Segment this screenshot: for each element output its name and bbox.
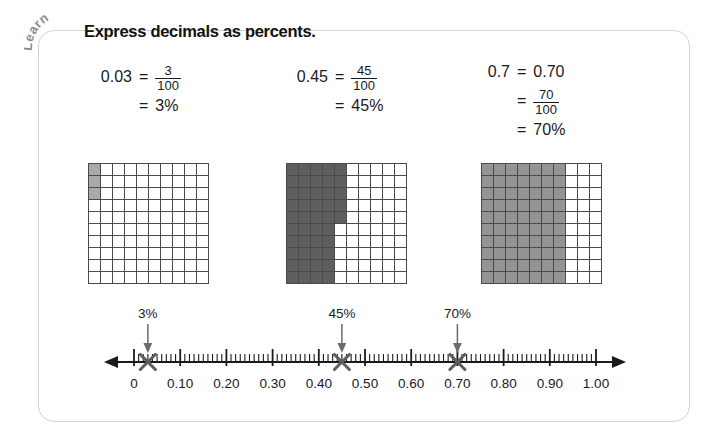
grid-cell-empty [125,200,136,211]
grid-cell-empty [161,200,172,211]
fraction-denominator: 100 [533,102,559,117]
grid-cell-shaded [299,176,310,187]
grid-cell-empty [578,224,589,235]
grid-cell-empty [383,272,394,283]
grid-cell-empty [371,164,382,175]
grid-cell-shaded [542,164,553,175]
grid-cell-shaded [518,188,529,199]
grid-cell-empty [359,176,370,187]
grid-cell-shaded [494,164,505,175]
grid-cell-empty [335,224,346,235]
grid-cell-shaded [323,224,334,235]
grid-cell-empty [395,248,406,259]
grid-cell-empty [347,272,358,283]
grid-cell-empty [371,176,382,187]
grid-cell-empty [347,200,358,211]
grid-cell-shaded [554,188,565,199]
grid-cell-empty [578,236,589,247]
grid-cell-shaded [554,176,565,187]
grid-cell-shaded [482,200,493,211]
grid-cell-shaded [506,212,517,223]
grid-cell-empty [89,260,100,271]
equation-decimal: 0.03 [92,68,132,86]
equation-line: = 70% [482,118,565,142]
grid-cell-empty [149,224,160,235]
grid-cell-empty [347,236,358,247]
equation-block-1: 0.03 = 3 100 = 3% [92,60,181,118]
grid-cell-shaded [299,236,310,247]
grid-cell-shaded [311,260,322,271]
grid-cell-empty [89,236,100,247]
grid-cell-shaded [311,224,322,235]
grid-cell-shaded [323,176,334,187]
hundredths-grid-3 [88,163,209,284]
grid-cell-shaded [518,176,529,187]
grid-cell-empty [173,176,184,187]
axis-tick-label: 1.00 [583,376,609,391]
grid-cell-shaded [335,212,346,223]
grid-cell-shaded [287,212,298,223]
grid-cell-empty [89,200,100,211]
number-line: 00.100.200.300.400.500.600.700.800.901.0… [106,300,626,400]
axis-tick-label: 0.50 [352,376,378,391]
equation-line: 0.03 = 3 100 [92,60,181,94]
grid-cell-shaded [311,164,322,175]
grid-cell-empty [590,248,601,259]
grid-cell-empty [383,236,394,247]
marker-label: 70% [444,306,471,321]
grid-cell-shaded [542,212,553,223]
grid-cell-empty [173,224,184,235]
grid-cell-shaded [299,224,310,235]
grid-cell-empty [371,188,382,199]
grid-cell-empty [590,272,601,283]
grid-cell-shaded [287,236,298,247]
grid-cell-shaded [89,188,100,199]
grid-cell-shaded [554,200,565,211]
grid-cells [481,163,602,284]
grid-cell-shaded [335,164,346,175]
grid-cell-shaded [482,164,493,175]
grid-cell-empty [185,200,196,211]
grid-cell-empty [89,224,100,235]
grid-cell-empty [335,272,346,283]
grid-cell-shaded [287,260,298,271]
equation-decimal: 0.7 [482,63,510,81]
grid-cell-empty [590,224,601,235]
grid-cell-shaded [287,272,298,283]
grid-cell-empty [566,260,577,271]
grid-cell-empty [125,248,136,259]
grid-cell-empty [197,164,208,175]
equals-sign: = [139,97,148,115]
grid-cell-empty [89,212,100,223]
grid-cell-shaded [530,212,541,223]
axis-tick-label: 0.20 [213,376,239,391]
grid-cell-empty [101,224,112,235]
equation-percent: 3% [155,97,178,115]
grid-cell-empty [161,164,172,175]
grid-cell-shaded [518,248,529,259]
axis-arrow-right [612,356,626,368]
grid-cell-shaded [542,224,553,235]
equation-block-2: 0.45 = 45 100 = 45% [288,60,383,118]
grid-cell-empty [149,176,160,187]
grid-cell-empty [371,236,382,247]
grid-cell-shaded [554,164,565,175]
grid-cell-empty [149,272,160,283]
marker-3: 3% [138,306,158,370]
grid-cell-empty [359,248,370,259]
grid-cell-empty [125,164,136,175]
grid-cell-empty [197,200,208,211]
grid-cell-empty [185,224,196,235]
grid-cell-shaded [323,164,334,175]
grid-cell-shaded [554,260,565,271]
grid-cell-empty [578,272,589,283]
grid-cell-empty [101,260,112,271]
grid-cell-shaded [518,164,529,175]
grid-cell-empty [185,272,196,283]
grid-cell-empty [578,176,589,187]
grid-cell-empty [359,236,370,247]
grid-cell-empty [335,260,346,271]
grid-cell-empty [101,164,112,175]
grid-cell-shaded [482,260,493,271]
grid-cell-empty [137,164,148,175]
